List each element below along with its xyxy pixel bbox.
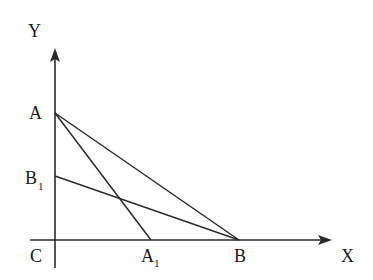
segment-b1-b — [55, 176, 239, 240]
point-a1-label: A — [141, 246, 154, 266]
point-b-label: B — [234, 246, 246, 266]
point-a1-subscript: 1 — [154, 257, 160, 269]
point-a-label: A — [29, 103, 42, 123]
point-b1-subscript: 1 — [38, 180, 44, 192]
y-axis-label: Y — [28, 21, 41, 41]
diagram-canvas: Y X C A B 1 A 1 B — [0, 0, 373, 280]
x-axis-label: X — [341, 246, 354, 266]
segment-a-a1 — [55, 113, 151, 240]
origin-label: C — [30, 246, 42, 266]
point-b1-label: B — [25, 168, 37, 188]
segment-a-b — [55, 113, 239, 240]
